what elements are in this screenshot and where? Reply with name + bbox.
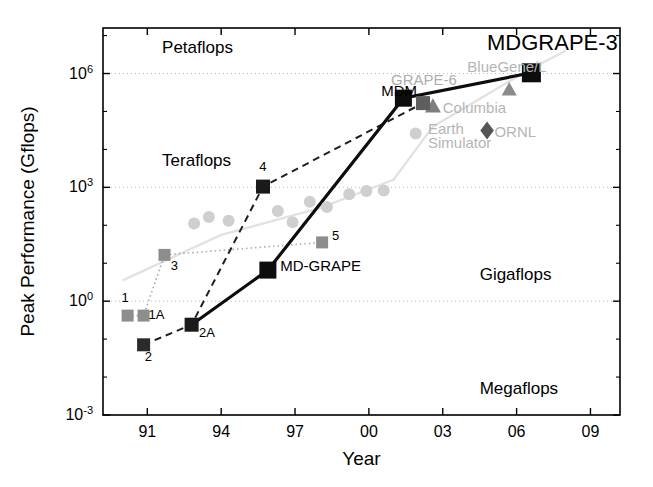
top500-circle-marker [287,216,299,228]
top500-circle-marker [321,201,333,213]
band-label-petaflops: Petaflops [162,38,233,57]
annotation-mdgrape-3: MDGRAPE-3 [487,30,618,55]
grape-square-marker [316,236,328,248]
top500-circle-marker [203,211,215,223]
x-tick-label: 00 [360,423,378,440]
annotation-ornl: ORNL [494,123,536,140]
annotation-md-grape: MD-GRAPE [280,257,361,274]
grape-square-marker [159,249,171,261]
top500-circle-marker [410,128,422,140]
plot-background [103,28,620,415]
x-tick-label: 97 [286,423,304,440]
band-label-megaflops: Megaflops [480,379,558,398]
grape-square-marker [122,310,134,322]
grape6-square-marker [416,96,430,110]
annotation-grape-6: GRAPE-6 [391,71,457,88]
annotation-4: 4 [259,159,266,174]
band-label-gigaflops: Gigaflops [480,265,552,284]
annotation-1a: 1A [149,307,165,322]
annotation-bluegene-l: BlueGene/L [467,58,546,75]
y-tick-label: 100 [69,290,93,309]
annotation-2: 2 [145,349,152,364]
x-axis-title: Year [342,448,381,469]
y-tick-label: 103 [69,176,93,195]
top500-circle-marker [343,188,355,200]
x-tick-label: 91 [138,423,156,440]
annotation-5: 5 [332,228,339,243]
grape-astro-square-marker [256,180,270,194]
chart-figure: MDGRAPE-3MDMMD-GRAPEGRAPE-6BlueGene/LCol… [0,0,653,487]
annotation-columbia: Columbia [443,99,507,116]
top500-circle-marker [188,217,200,229]
x-tick-label: 09 [582,423,600,440]
x-tick-label: 94 [212,423,230,440]
top500-circle-marker [378,184,390,196]
annotation-simulator: Simulator [428,134,491,151]
top500-circle-marker [360,185,372,197]
y-axis-title: Peak Performance (Gflops) [17,106,38,336]
x-tick-label: 06 [508,423,526,440]
top500-circle-marker [223,215,235,227]
top500-circle-marker [304,196,316,208]
mdgrape-square-marker [259,262,276,279]
mdgrape-square-marker [185,318,199,332]
annotation-1: 1 [121,290,128,305]
y-tick-label: 106 [69,63,93,82]
peak-performance-vs-year-chart: MDGRAPE-3MDMMD-GRAPEGRAPE-6BlueGene/LCol… [0,0,653,487]
annotation-2a: 2A [199,325,215,340]
annotation-3: 3 [171,258,178,273]
y-tick-label: 10-3 [65,404,93,423]
band-label-teraflops: Teraflops [162,151,231,170]
top500-circle-marker [272,205,284,217]
x-tick-label: 03 [434,423,452,440]
